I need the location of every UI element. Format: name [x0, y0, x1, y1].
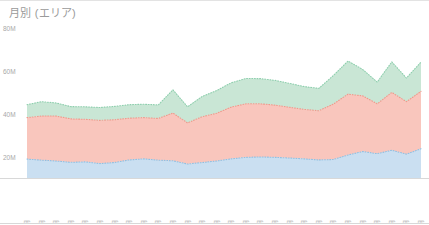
- y-axis-tick-label: 60M: [3, 68, 16, 75]
- y-axis-tick-label: 40M: [3, 111, 16, 118]
- y-axis-tick-label: 80M: [3, 25, 16, 32]
- y-axis-tick-label: 20M: [3, 154, 16, 161]
- stacked-area-plot: 80M60M40M20M 2016年4月2016年5月2016年6月2016年7…: [0, 0, 429, 224]
- y-axis: 80M60M40M20M: [3, 25, 16, 161]
- x-axis: 2016年4月2016年5月2016年6月2016年7月2016年8月2016年…: [0, 179, 429, 225]
- area-chart-card: 月別 (エリア) 80M60M40M20M 2016年4月2016年5月2016…: [0, 0, 429, 224]
